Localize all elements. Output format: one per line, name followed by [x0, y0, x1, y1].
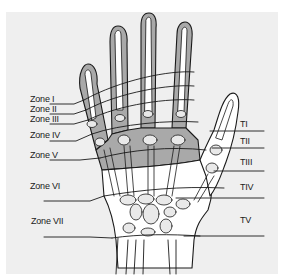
- thumb-zone-label-4: TIV: [240, 182, 253, 192]
- zone-label-2: Zone II: [30, 104, 57, 114]
- zone-label-4: Zone IV: [30, 130, 60, 140]
- thumb-zone-label-5: TV: [240, 215, 251, 225]
- zone-label-5: Zone V: [30, 150, 58, 160]
- thumb-zone-label-2: TII: [240, 136, 250, 146]
- zone-label-6: Zone VI: [30, 181, 60, 191]
- thumb-zone-label-3: TIII: [240, 157, 252, 167]
- thumb-zone-label-1: TI: [240, 119, 248, 129]
- zone-label-7: Zone VII: [31, 216, 63, 226]
- zone-label-1: Zone I: [30, 94, 54, 104]
- zone-label-3: Zone III: [30, 114, 59, 124]
